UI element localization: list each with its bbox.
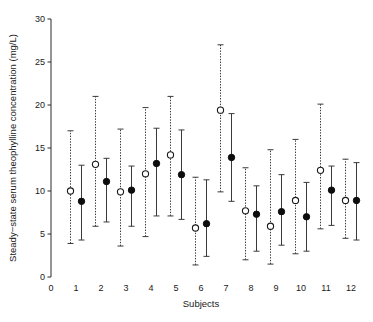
y-axis-title-group: Steady−state serum theophylline concentr… (7, 34, 18, 262)
subject-group-2 (92, 96, 109, 226)
data-point-open-9 (267, 223, 273, 229)
x-axis-tick-label: 7 (223, 283, 228, 293)
data-point-open-7 (217, 107, 223, 113)
data-point-open-3 (117, 189, 123, 195)
data-point-filled-5 (178, 171, 184, 177)
data-point-open-12 (342, 197, 348, 203)
subject-group-5 (167, 96, 184, 219)
data-point-filled-1 (78, 198, 84, 204)
x-axis: 0123456789101112Subjects (48, 277, 356, 309)
data-point-open-11 (317, 167, 323, 173)
x-axis-tick-label: 1 (73, 283, 78, 293)
x-axis-tick-label: 8 (248, 283, 253, 293)
y-axis-tick-label: 20 (35, 100, 45, 110)
x-axis-tick-label: 5 (173, 283, 178, 293)
y-axis-tick-label: 30 (35, 14, 45, 24)
data-point-filled-4 (153, 160, 159, 166)
x-axis-title: Subjects (183, 298, 220, 309)
data-point-open-6 (192, 225, 198, 231)
subject-group-8 (242, 168, 259, 260)
x-axis-tick-label: 10 (296, 283, 306, 293)
data-point-open-5 (167, 152, 173, 158)
data-point-open-1 (67, 188, 73, 194)
y-axis: 051015202530 (35, 14, 51, 282)
data-point-filled-3 (128, 187, 134, 193)
data-layer (67, 45, 359, 265)
y-axis-title: Steady−state serum theophylline concentr… (7, 34, 18, 262)
x-axis-tick-label: 11 (321, 283, 330, 293)
subject-group-11 (317, 104, 334, 229)
y-axis-tick-label: 0 (40, 272, 45, 282)
subject-group-4 (142, 108, 159, 237)
x-axis-tick-label: 4 (148, 283, 153, 293)
data-point-open-4 (142, 171, 148, 177)
y-axis-tick-label: 5 (40, 229, 45, 239)
subject-group-3 (117, 129, 134, 246)
subject-group-6 (192, 177, 209, 265)
subject-group-1 (67, 131, 84, 244)
y-axis-tick-label: 15 (35, 143, 45, 153)
data-point-filled-2 (103, 178, 109, 184)
data-point-filled-11 (328, 187, 334, 193)
data-point-filled-8 (253, 211, 259, 217)
data-point-open-10 (292, 197, 298, 203)
data-point-filled-7 (228, 154, 234, 160)
x-axis-tick-label: 0 (48, 283, 53, 293)
plot-canvas: 0510152025300123456789101112SubjectsStea… (0, 0, 373, 322)
x-axis-tick-label: 9 (273, 283, 278, 293)
x-axis-tick-label: 2 (98, 283, 103, 293)
data-point-open-8 (242, 208, 248, 214)
subject-group-9 (267, 150, 284, 264)
data-point-filled-12 (353, 197, 359, 203)
x-axis-tick-label: 12 (346, 283, 356, 293)
data-point-open-2 (92, 161, 98, 167)
theophylline-scatter-figure: 0510152025300123456789101112SubjectsStea… (0, 0, 373, 322)
subject-group-10 (292, 139, 309, 253)
x-axis-tick-label: 3 (123, 283, 128, 293)
x-axis-tick-label: 6 (198, 283, 203, 293)
subject-group-12 (342, 159, 359, 240)
y-axis-tick-label: 10 (35, 186, 45, 196)
y-axis-tick-label: 25 (35, 57, 45, 67)
data-point-filled-9 (278, 208, 284, 214)
data-point-filled-10 (303, 214, 309, 220)
subject-group-7 (217, 45, 234, 202)
data-point-filled-6 (203, 220, 209, 226)
